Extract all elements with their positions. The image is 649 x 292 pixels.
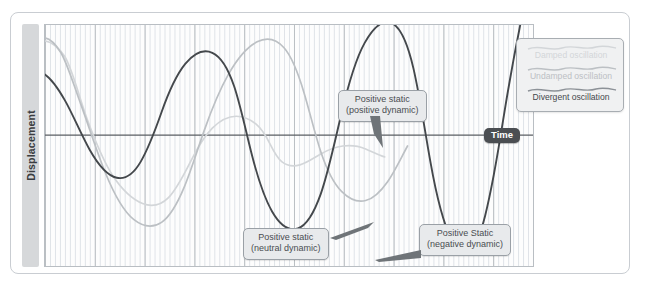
callout-line2: (neutral dynamic)	[251, 243, 321, 254]
callout-line2: (negative dynamic)	[427, 239, 503, 250]
callout-line1: Positive static	[251, 232, 321, 243]
callout-line2: (positive dynamic)	[346, 105, 419, 116]
legend-label-damped: Damped oscillation	[522, 51, 620, 61]
x-axis-time-badge: Time	[484, 128, 520, 143]
legend: Damped oscillation Undamped oscillation …	[516, 38, 624, 112]
legend-label-divergent: Divergent oscillation	[522, 93, 620, 103]
callout-pointer-negative-dynamic	[375, 248, 423, 262]
legend-label-undamped: Undamped oscillation	[522, 72, 620, 82]
callout-positive-static-negative-dynamic: Positive Static (negative dynamic)	[419, 224, 511, 256]
legend-item-divergent: Divergent oscillation	[522, 85, 618, 106]
legend-item-damped: Damped oscillation	[522, 43, 618, 64]
callout-line1: Positive static	[346, 94, 419, 105]
callout-pointer-neutral-dynamic	[330, 222, 376, 240]
figure-container: Displacement Time	[0, 0, 649, 292]
y-axis-label: Displacement	[22, 24, 39, 267]
legend-item-undamped: Undamped oscillation	[522, 64, 618, 85]
callout-pointer-positive-dynamic	[370, 116, 392, 150]
callout-positive-static-neutral-dynamic: Positive static (neutral dynamic)	[243, 228, 329, 260]
callout-line1: Positive Static	[427, 228, 503, 239]
